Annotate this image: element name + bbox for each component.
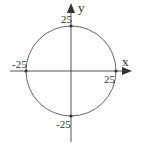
x-axis-label: x bbox=[122, 54, 129, 69]
circle-diagram: y x 25 -25 25 -25 bbox=[0, 0, 141, 147]
y-axis-label: y bbox=[78, 0, 85, 15]
label-bottom: -25 bbox=[56, 118, 71, 130]
y-axis-arrow-icon bbox=[67, 3, 75, 13]
label-right: 25 bbox=[104, 73, 116, 85]
label-left: -25 bbox=[12, 58, 27, 70]
label-top: 25 bbox=[61, 13, 73, 25]
